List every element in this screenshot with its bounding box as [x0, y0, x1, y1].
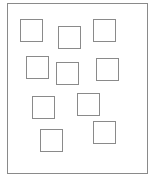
square-2	[58, 26, 81, 49]
square-1	[20, 19, 43, 42]
square-5	[56, 62, 79, 85]
square-6	[96, 58, 119, 81]
square-3	[93, 19, 116, 42]
square-7	[32, 96, 55, 119]
square-9	[40, 129, 63, 152]
square-10	[93, 121, 116, 144]
square-4	[26, 56, 49, 79]
square-8	[77, 93, 100, 116]
